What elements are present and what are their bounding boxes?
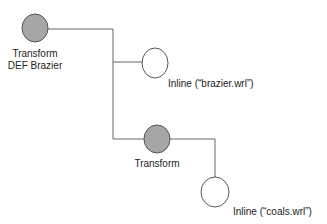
label-transform-brazier: Transform DEF Brazier <box>0 48 70 72</box>
node-transform-brazier <box>22 14 48 42</box>
edge-brazier-to-transform <box>113 62 144 139</box>
label-line-transform: Transform <box>0 48 70 60</box>
scene-graph-diagram <box>0 0 327 224</box>
node-transform-coals <box>144 125 170 153</box>
node-inline-coals <box>201 177 229 207</box>
label-transform-coals: Transform <box>127 158 187 170</box>
label-inline-coals: Inline (“coals.wrl”) <box>233 206 312 218</box>
label-inline-brazier: Inline (“brazier.wrl”) <box>168 78 254 90</box>
node-inline-brazier <box>142 48 168 78</box>
label-line-def-brazier: DEF Brazier <box>0 60 70 72</box>
